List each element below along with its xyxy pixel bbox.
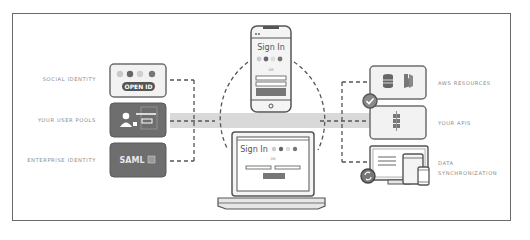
phone-username-field — [256, 76, 286, 80]
amazon-icon — [117, 71, 123, 77]
user-pools-box — [110, 103, 166, 137]
data-sync-devices — [361, 146, 429, 185]
facebook-icon — [127, 71, 133, 77]
label-data: DATA — [438, 160, 454, 166]
laptop-or-text: OR — [270, 157, 276, 161]
google-icon — [149, 71, 155, 77]
phone-device: Sign In OR — [251, 26, 291, 112]
saml-badge-text: SAML — [119, 156, 144, 165]
laptop-sign-in-title: Sign In — [240, 145, 267, 154]
check-badge — [363, 94, 377, 108]
phone-password-field — [256, 82, 286, 86]
laptop-password-field — [275, 166, 300, 169]
openid-badge-text: OPEN ID — [125, 83, 153, 90]
your-apis-box — [370, 106, 426, 139]
enterprise-identity-box: SAML — [110, 143, 166, 177]
laptop-device: Sign In OR — [218, 132, 325, 209]
label-your-apis: YOUR APIS — [438, 120, 471, 126]
directory-icon — [148, 156, 155, 163]
label-synchronization: SYNCHRONIZATION — [438, 170, 497, 176]
phone-or-text: OR — [268, 68, 274, 72]
phone-sign-in-title: Sign In — [257, 43, 284, 52]
user-icon — [123, 113, 130, 120]
twitter-icon — [137, 71, 143, 77]
label-aws-resources: AWS RESOURCES — [438, 80, 491, 86]
social-identity-box: OPEN ID — [110, 64, 166, 97]
label-enterprise-identity: ENTERPRISE IDENTITY — [20, 157, 96, 163]
phone-sign-in-button — [256, 88, 286, 96]
label-user-pools: YOUR USER POOLS — [30, 117, 96, 123]
lock-icon — [133, 122, 137, 126]
laptop-username-field — [246, 166, 271, 169]
aws-resources-box — [370, 66, 426, 99]
label-social-identity: SOCIAL IDENTITY — [30, 76, 96, 82]
laptop-sign-in-button — [263, 173, 285, 179]
api-gateway-icon — [393, 111, 400, 131]
sync-icon — [361, 169, 375, 183]
